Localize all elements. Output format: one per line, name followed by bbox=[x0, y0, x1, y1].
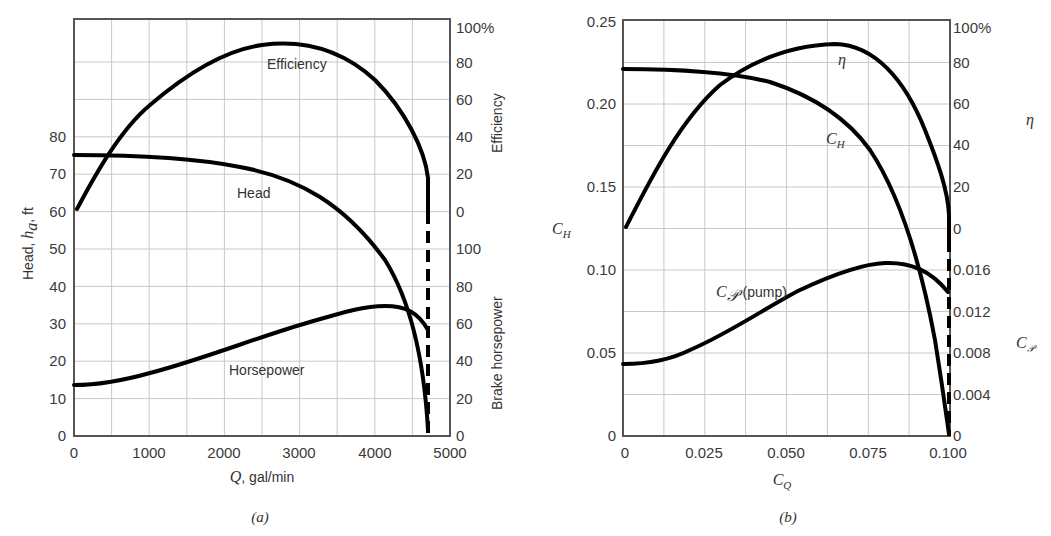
chart-b-eta-axis-label: η bbox=[1026, 111, 1034, 129]
tick: 0.100 bbox=[929, 444, 967, 461]
tick: 40 bbox=[456, 352, 473, 369]
tick: 60 bbox=[456, 91, 473, 108]
chart-b-right-axis: 100% 80 60 40 20 0 0.016 0.012 0.008 0.0… bbox=[953, 19, 1037, 444]
tick: 40 bbox=[953, 136, 970, 153]
chart-a-efficiency-axis-label: Efficiency bbox=[489, 93, 505, 153]
tick: 0.016 bbox=[953, 261, 991, 278]
tick: 10 bbox=[49, 390, 66, 407]
tick: 20 bbox=[49, 352, 66, 369]
chart-a-left-axis: 0 10 20 30 40 50 60 70 80 Head, ha, ft bbox=[19, 128, 66, 444]
chart-a-head-annotation: Head bbox=[237, 185, 270, 201]
tick: 0 bbox=[953, 427, 961, 444]
tick: 0 bbox=[58, 427, 66, 444]
tick: 100 bbox=[456, 240, 481, 257]
chart-b-caption: (b) bbox=[779, 509, 797, 526]
tick: 0 bbox=[608, 427, 616, 444]
chart-a: 0 10 20 30 40 50 60 70 80 Head, ha, ft 1… bbox=[19, 19, 505, 526]
chart-a-y-axis-label: Head, ha, ft bbox=[19, 207, 40, 280]
tick: 50 bbox=[49, 240, 66, 257]
tick: 40 bbox=[49, 278, 66, 295]
tick: 0.10 bbox=[587, 261, 616, 278]
tick: 0.008 bbox=[953, 344, 991, 361]
chart-b-eta-annotation: η bbox=[838, 51, 846, 69]
chart-a-x-axis-label: Q, gal/min bbox=[230, 468, 294, 485]
tick: 0.050 bbox=[767, 444, 805, 461]
tick: 1000 bbox=[132, 444, 165, 461]
tick: 0 bbox=[70, 444, 78, 461]
tick: 0.05 bbox=[587, 344, 616, 361]
chart-b-x-axis: 0 0.025 0.050 0.075 0.100 CQ bbox=[621, 444, 967, 491]
tick: 60 bbox=[456, 315, 473, 332]
chart-b-left-axis: 0 0.05 0.10 0.15 0.20 0.25 CH bbox=[552, 13, 616, 444]
tick: 0.004 bbox=[953, 386, 991, 403]
tick: 60 bbox=[953, 95, 970, 112]
tick: 80 bbox=[456, 278, 473, 295]
tick: 20 bbox=[456, 165, 473, 182]
tick: 0.25 bbox=[587, 13, 616, 30]
chart-a-x-axis: 0 1000 2000 3000 4000 5000 Q, gal/min bbox=[70, 444, 467, 485]
tick: 100% bbox=[953, 19, 991, 36]
chart-a-caption: (a) bbox=[251, 509, 269, 526]
tick: 5000 bbox=[433, 444, 466, 461]
tick: 100% bbox=[456, 19, 494, 36]
chart-b: 0 0.05 0.10 0.15 0.20 0.25 CH 100% 80 60… bbox=[552, 13, 1037, 526]
tick: 0 bbox=[621, 444, 629, 461]
chart-b-ch-annotation: CH bbox=[826, 130, 846, 150]
tick: 70 bbox=[49, 165, 66, 182]
chart-b-x-axis-label: CQ bbox=[773, 471, 792, 491]
tick: 80 bbox=[456, 54, 473, 71]
chart-a-horsepower-annotation: Horsepower bbox=[229, 362, 305, 378]
tick: 30 bbox=[49, 315, 66, 332]
chart-b-cp-axis-label: C𝒫 bbox=[1016, 334, 1037, 354]
tick: 0.075 bbox=[849, 444, 887, 461]
tick: 80 bbox=[953, 54, 970, 71]
tick: 2000 bbox=[207, 444, 240, 461]
tick: 40 bbox=[456, 128, 473, 145]
tick: 0.15 bbox=[587, 178, 616, 195]
tick: 0 bbox=[456, 203, 464, 220]
tick: 3000 bbox=[282, 444, 315, 461]
tick: 0.20 bbox=[587, 95, 616, 112]
tick: 60 bbox=[49, 203, 66, 220]
tick: 0 bbox=[456, 427, 464, 444]
tick: 4000 bbox=[358, 444, 391, 461]
chart-b-y-axis-label: CH bbox=[552, 220, 572, 240]
figure: 0 10 20 30 40 50 60 70 80 Head, ha, ft 1… bbox=[0, 0, 1051, 536]
chart-a-hp-axis-label: Brake horsepower bbox=[489, 296, 505, 410]
chart-b-cp-curve bbox=[623, 263, 948, 364]
tick: 0.012 bbox=[953, 303, 991, 320]
tick: 20 bbox=[456, 390, 473, 407]
tick: 0 bbox=[953, 220, 961, 237]
chart-a-right-axis: 100% 80 60 40 20 0 100 80 60 40 20 0 Eff… bbox=[456, 19, 505, 444]
tick: 80 bbox=[49, 128, 66, 145]
tick: 20 bbox=[953, 178, 970, 195]
tick: 0.025 bbox=[685, 444, 723, 461]
chart-a-efficiency-annotation: Efficiency bbox=[267, 56, 327, 72]
